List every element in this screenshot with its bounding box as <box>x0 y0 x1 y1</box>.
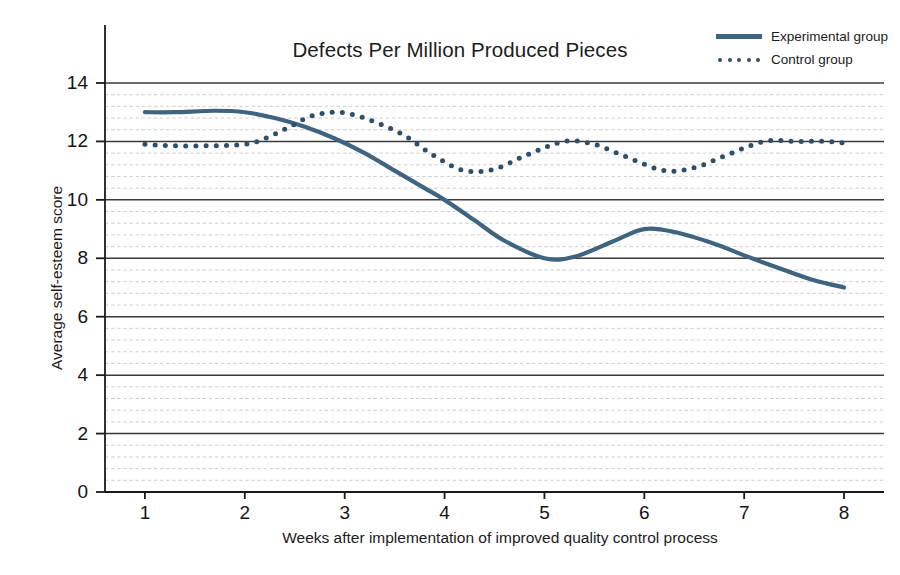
legend-label-experimental-group: Experimental group <box>771 29 888 44</box>
y-axis-tick-label: 4 <box>48 365 88 384</box>
x-axis-tick-label: 8 <box>824 503 864 522</box>
x-axis-tick-label: 7 <box>724 503 764 522</box>
y-axis-tick-label: 14 <box>48 73 88 92</box>
y-axis-tick-label: 10 <box>48 190 88 209</box>
y-axis-tick-label: 0 <box>48 482 88 501</box>
x-axis-tick-label: 5 <box>524 503 564 522</box>
x-axis-title: Weeks after implementation of improved q… <box>105 529 895 547</box>
y-axis-tick-marks <box>96 83 105 492</box>
legend-item-experimental-group: Experimental group <box>716 26 896 47</box>
y-axis-tick-label: 2 <box>48 424 88 443</box>
chart-plot-svg <box>0 0 900 575</box>
legend-label-control-group: Control group <box>771 52 853 67</box>
y-axis-tick-label: 8 <box>48 248 88 267</box>
chart-title: Defects Per Million Produced Pieces <box>230 38 690 62</box>
legend-item-control-group: Control group <box>716 49 896 70</box>
x-axis-tick-label: 1 <box>125 503 165 522</box>
x-axis-tick-marks <box>145 492 844 499</box>
x-axis-tick-label: 6 <box>624 503 664 522</box>
legend-dotted-line-icon <box>716 53 762 67</box>
chart-container: Defects Per Million Produced Pieces Aver… <box>0 0 900 575</box>
legend-solid-line-icon <box>716 30 762 44</box>
chart-legend: Experimental group Control group <box>716 26 896 72</box>
minor-gridlines <box>105 95 884 481</box>
y-axis-tick-label: 6 <box>48 307 88 326</box>
x-axis-tick-label: 3 <box>325 503 365 522</box>
y-axis-tick-label: 12 <box>48 131 88 150</box>
major-gridlines <box>105 83 884 434</box>
x-axis-tick-label: 2 <box>225 503 265 522</box>
x-axis-tick-label: 4 <box>425 503 465 522</box>
